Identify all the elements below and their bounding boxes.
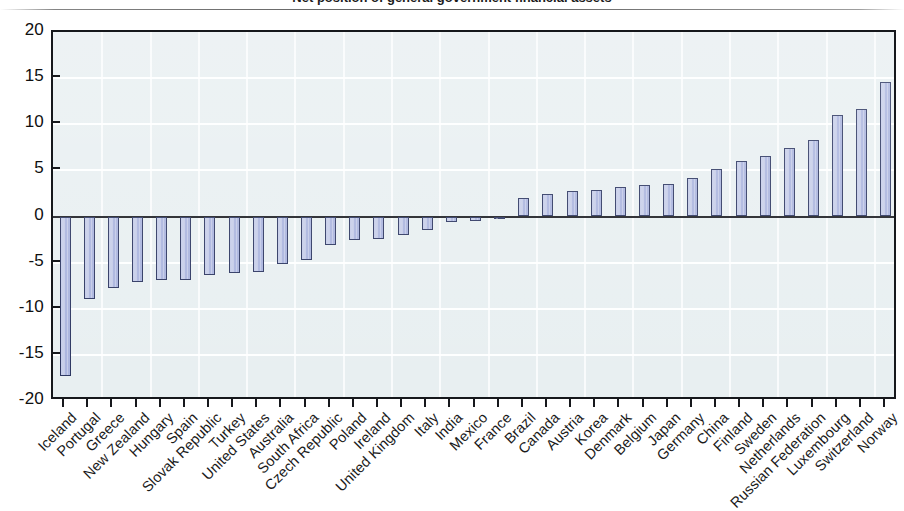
y-axis-tick-label: 10 bbox=[0, 113, 44, 130]
bar-new-zealand[interactable] bbox=[132, 217, 143, 282]
bar-highlight bbox=[424, 218, 426, 230]
x-axis-tick-mark bbox=[473, 399, 475, 407]
bar-highlight bbox=[206, 218, 208, 274]
bar-united-kingdom[interactable] bbox=[398, 217, 409, 235]
bar-ireland[interactable] bbox=[373, 217, 384, 239]
y-axis-tick-mark bbox=[51, 75, 60, 77]
bar-highlight bbox=[569, 192, 571, 216]
bar-netherlands[interactable] bbox=[784, 148, 795, 216]
y-axis-tick-label: 5 bbox=[0, 159, 44, 176]
y-axis-tick-mark bbox=[51, 260, 60, 262]
y-axis-tick-label: -10 bbox=[0, 298, 44, 315]
gridline-vertical bbox=[294, 32, 296, 397]
bar-highlight bbox=[182, 218, 184, 280]
bar-sweden[interactable] bbox=[760, 156, 771, 217]
gridline-vertical bbox=[874, 32, 876, 397]
title-divider-rule bbox=[0, 9, 904, 10]
x-axis-tick-mark bbox=[714, 399, 716, 407]
bar-czech-republic[interactable] bbox=[325, 217, 336, 246]
bar-highlight bbox=[62, 218, 64, 376]
y-axis-tick-mark bbox=[51, 121, 60, 123]
gridline-vertical bbox=[488, 32, 490, 397]
bar-greece[interactable] bbox=[108, 217, 119, 288]
x-axis-tick-mark bbox=[400, 399, 402, 407]
bar-brazil[interactable] bbox=[518, 198, 529, 216]
bar-finland[interactable] bbox=[736, 161, 747, 216]
y-axis-tick-label: -5 bbox=[0, 252, 44, 269]
bar-highlight bbox=[448, 218, 450, 222]
x-axis-tick-mark bbox=[86, 399, 88, 407]
bar-denmark[interactable] bbox=[615, 187, 626, 217]
gridline-vertical bbox=[150, 32, 152, 397]
y-axis-tick-mark bbox=[51, 352, 60, 354]
bar-highlight bbox=[713, 170, 715, 216]
x-axis-tick-mark bbox=[159, 399, 161, 407]
bar-hungary[interactable] bbox=[156, 217, 167, 281]
bar-mexico[interactable] bbox=[470, 217, 481, 222]
bar-highlight bbox=[472, 218, 474, 221]
x-axis-tick-mark bbox=[183, 399, 185, 407]
x-axis-tick-mark bbox=[617, 399, 619, 407]
bar-highlight bbox=[810, 141, 812, 216]
gridline-vertical bbox=[198, 32, 200, 397]
bar-austria[interactable] bbox=[567, 191, 578, 217]
bar-korea[interactable] bbox=[591, 190, 602, 217]
bar-south-africa[interactable] bbox=[301, 217, 312, 260]
bar-highlight bbox=[544, 195, 546, 215]
chart-title-cropped: Net position of general government finan… bbox=[0, 0, 904, 9]
bar-russian-federation[interactable] bbox=[808, 140, 819, 217]
bar-highlight bbox=[689, 179, 691, 216]
bar-highlight bbox=[665, 185, 667, 215]
bar-highlight bbox=[86, 218, 88, 298]
bar-india[interactable] bbox=[446, 217, 457, 223]
bar-united-states[interactable] bbox=[253, 217, 264, 272]
x-axis-tick-mark bbox=[304, 399, 306, 407]
bar-portugal[interactable] bbox=[84, 217, 95, 299]
bar-switzerland[interactable] bbox=[856, 109, 867, 217]
bar-highlight bbox=[786, 149, 788, 215]
y-axis-tick-label: 15 bbox=[0, 67, 44, 84]
bar-japan[interactable] bbox=[663, 184, 674, 216]
bar-highlight bbox=[255, 218, 257, 271]
x-axis-tick-mark bbox=[62, 399, 64, 407]
gridline-vertical bbox=[632, 32, 634, 397]
bar-highlight bbox=[375, 218, 377, 238]
bar-highlight bbox=[110, 218, 112, 287]
bar-belgium[interactable] bbox=[639, 185, 650, 216]
bar-slovak-republic[interactable] bbox=[204, 217, 215, 275]
gridline-horizontal bbox=[53, 308, 894, 310]
bar-luxembourg[interactable] bbox=[832, 115, 843, 216]
gridline-vertical bbox=[439, 32, 441, 397]
bar-china[interactable] bbox=[711, 169, 722, 217]
bar-germany[interactable] bbox=[687, 178, 698, 217]
x-axis-tick-mark bbox=[690, 399, 692, 407]
bar-iceland[interactable] bbox=[60, 217, 71, 377]
x-axis-tick-mark bbox=[207, 399, 209, 407]
bar-poland[interactable] bbox=[349, 217, 360, 241]
bar-canada[interactable] bbox=[542, 194, 553, 216]
bar-highlight bbox=[762, 157, 764, 216]
chart-title-text: Net position of general government finan… bbox=[0, 0, 904, 4]
bar-italy[interactable] bbox=[422, 217, 433, 231]
bar-spain[interactable] bbox=[180, 217, 191, 281]
gridline-vertical bbox=[391, 32, 393, 397]
bar-france[interactable] bbox=[494, 217, 505, 220]
bar-highlight bbox=[351, 218, 353, 240]
bar-australia[interactable] bbox=[277, 217, 288, 265]
gridline-vertical bbox=[343, 32, 345, 397]
x-axis-tick-mark bbox=[521, 399, 523, 407]
gridline-horizontal bbox=[53, 123, 894, 125]
x-axis-tick-mark bbox=[835, 399, 837, 407]
gridline-horizontal bbox=[53, 262, 894, 264]
x-axis-tick-mark bbox=[135, 399, 137, 407]
bar-highlight bbox=[882, 83, 884, 216]
bar-turkey[interactable] bbox=[229, 217, 240, 273]
plot-area bbox=[51, 30, 896, 399]
bar-norway[interactable] bbox=[880, 82, 891, 217]
bar-highlight bbox=[303, 218, 305, 259]
bar-highlight bbox=[641, 186, 643, 215]
gridline-vertical bbox=[729, 32, 731, 397]
x-axis-tick-mark bbox=[593, 399, 595, 407]
gridline-horizontal bbox=[53, 354, 894, 356]
gridline-vertical bbox=[681, 32, 683, 397]
